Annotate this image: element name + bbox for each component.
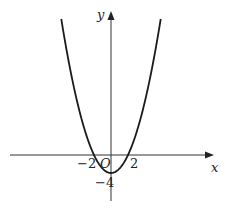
parabola-figure: y x O −2 2 −4 bbox=[0, 0, 227, 211]
x-axis-arrow-icon bbox=[205, 152, 214, 159]
x-axis-label: x bbox=[211, 160, 219, 175]
x-tick-pos-2: 2 bbox=[130, 156, 138, 171]
x-tick-neg-2: −2 bbox=[77, 156, 96, 171]
origin-label: O bbox=[100, 156, 111, 171]
y-axis-arrow-icon bbox=[108, 11, 115, 20]
y-axis-label: y bbox=[96, 7, 105, 22]
y-tick-neg-4: −4 bbox=[95, 175, 114, 190]
